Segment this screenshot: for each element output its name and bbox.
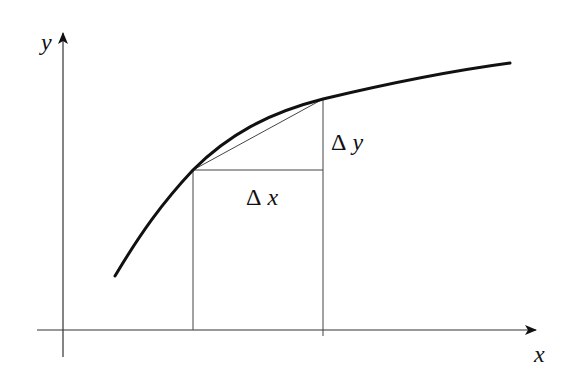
- delta-x-label: Δx: [246, 184, 278, 210]
- y-axis-label: y: [39, 29, 52, 55]
- delta-y-label: Δy: [331, 129, 363, 155]
- delta-y-var: y: [350, 129, 363, 155]
- delta-symbol: Δ: [246, 184, 261, 210]
- secant-line: [193, 99, 323, 170]
- derivative-diagram: y x Δx Δy: [0, 0, 572, 383]
- x-axis-label: x: [533, 341, 545, 367]
- delta-symbol: Δ: [331, 129, 346, 155]
- delta-x-var: x: [266, 184, 278, 210]
